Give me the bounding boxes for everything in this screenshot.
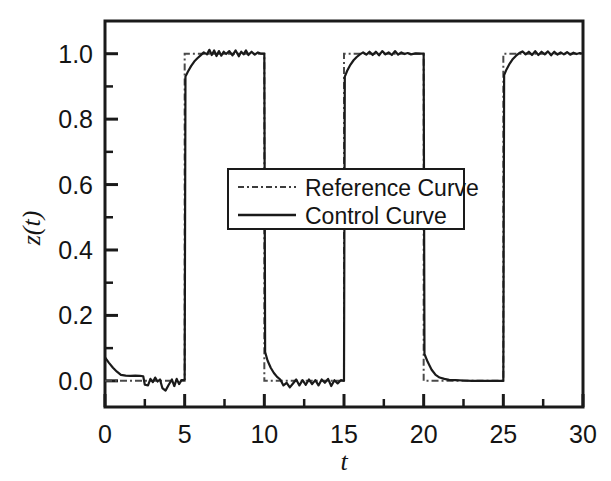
chart-figure: 0.00.20.40.60.81.0 051015202530 z(t) t R… — [0, 0, 611, 481]
y-axis-title-paren-close: ) — [17, 211, 46, 222]
plot-svg: 0.00.20.40.60.81.0 051015202530 z(t) t R… — [0, 0, 611, 481]
x-tick-label: 20 — [410, 420, 438, 448]
x-tick-label: 15 — [330, 420, 358, 448]
x-tick-label: 5 — [178, 420, 192, 448]
y-tick-label: 0.6 — [58, 171, 93, 199]
y-tick-label: 0.0 — [58, 367, 93, 395]
y-axis-tick-labels: 0.00.20.40.60.81.0 — [58, 40, 93, 395]
x-axis-major-ticks — [105, 394, 583, 407]
x-tick-label: 0 — [98, 420, 112, 448]
y-tick-label: 1.0 — [58, 40, 93, 68]
y-axis-title: z(t) — [17, 211, 46, 247]
legend-label: Control Curve — [305, 203, 447, 229]
x-axis-tick-labels: 051015202530 — [98, 420, 597, 448]
chart-legend[interactable]: Reference CurveControl Curve — [228, 169, 479, 229]
y-axis-title-variable: z — [17, 235, 46, 246]
partial-caption-ghost — [60, 461, 560, 479]
x-tick-label: 25 — [489, 420, 517, 448]
y-tick-label: 0.4 — [58, 236, 93, 264]
x-tick-label: 30 — [569, 420, 597, 448]
y-tick-label: 0.2 — [58, 301, 93, 329]
legend-label: Reference Curve — [305, 175, 479, 201]
svg-text:z(t): z(t) — [17, 211, 46, 247]
x-tick-label: 10 — [250, 420, 278, 448]
y-tick-label: 0.8 — [58, 105, 93, 133]
